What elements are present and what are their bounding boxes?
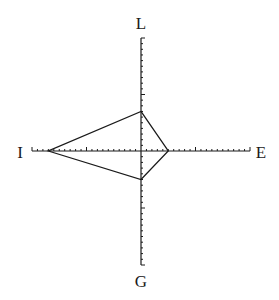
profile-polygon [48,111,168,179]
axis-label-top: L [136,15,146,32]
axis-label-bottom: G [135,273,147,290]
axis-label-right: E [256,144,266,161]
four-axis-diagram [0,0,279,300]
axis-label-left: I [17,144,23,161]
